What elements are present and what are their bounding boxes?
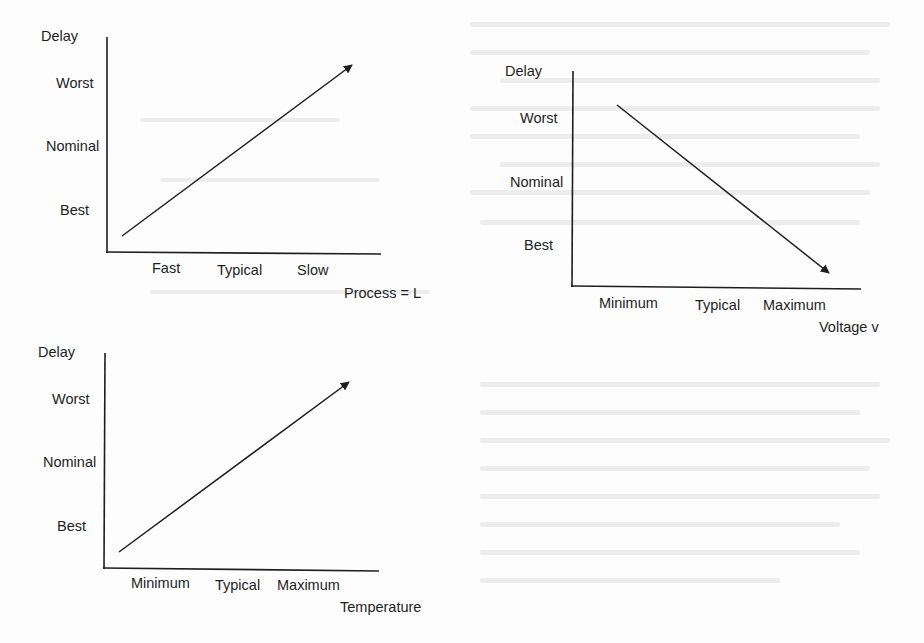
voltage-x-axis [571,286,861,289]
temperature-y-level-best: Best [57,519,86,534]
voltage-y-level-worst: Worst [520,111,558,126]
process-trend-arrow-icon [122,65,352,236]
temperature-x-tick-minimum: Minimum [131,576,190,591]
voltage-x-tick-minimum: Minimum [599,296,658,311]
temperature-x-axis [103,568,379,571]
process-x-tick-slow: Slow [297,263,328,278]
voltage-y-level-nominal: Nominal [510,175,563,190]
delay-diagrams-canvas [0,0,924,643]
process-y-axis-title: Delay [41,29,78,44]
temperature-y-axis-title: Delay [38,345,75,360]
process-x-tick-fast: Fast [152,261,180,276]
process-y-level-best: Best [60,203,89,218]
process-diagram [106,37,381,254]
temperature-y-level-worst: Worst [52,392,90,407]
voltage-diagram [571,71,861,289]
voltage-y-axis [572,71,573,287]
temperature-x-tick-typical: Typical [215,578,260,593]
voltage-x-tick-maximum: Maximum [763,298,826,313]
process-x-tick-typical: Typical [217,263,262,278]
process-y-level-nominal: Nominal [46,139,99,154]
voltage-y-axis-title: Delay [505,64,542,79]
process-y-level-worst: Worst [56,76,94,91]
process-x-axis-title: Process = L [344,286,421,301]
voltage-x-axis-title: Voltage v [819,320,879,335]
temperature-y-axis [104,353,105,569]
temperature-trend-arrow-icon [119,382,349,552]
process-x-axis [106,252,381,254]
temperature-diagram [103,353,379,571]
diagram-page: Delay Worst Nominal Best Fast Typical Sl… [0,0,924,643]
temperature-x-tick-maximum: Maximum [277,578,340,593]
voltage-trend-arrow-icon [617,105,829,273]
voltage-x-tick-typical: Typical [695,298,740,313]
temperature-x-axis-title: Temperature [340,600,421,615]
voltage-y-level-best: Best [524,238,553,253]
temperature-y-level-nominal: Nominal [43,455,96,470]
